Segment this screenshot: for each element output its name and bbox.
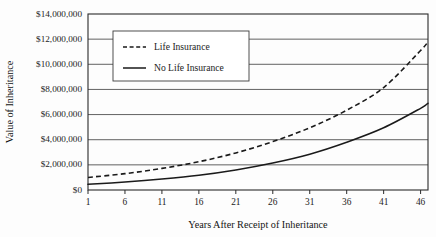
legend-label: No Life Insurance [154,62,224,73]
x-tick-label: 11 [157,197,166,207]
y-tick-label: $4,000,000 [41,134,83,144]
x-tick-label: 46 [416,197,426,207]
legend-label: Life Insurance [154,41,210,52]
legend-box [113,31,249,81]
x-tick-label: 26 [268,197,278,207]
legend: Life InsuranceNo Life Insurance [113,31,249,81]
y-tick-label: $12,000,000 [36,34,82,44]
x-axis-title: Years After Receipt of Inheritance [188,219,328,230]
y-tick-label: $8,000,000 [41,84,83,94]
chart-figure: $0$2,000,000$4,000,000$6,000,000$8,000,0… [0,0,436,237]
x-axis-tick-marks [88,190,421,194]
x-tick-label: 41 [379,197,389,207]
x-tick-label: 1 [86,197,91,207]
y-tick-label: $6,000,000 [41,109,83,119]
x-tick-label: 21 [231,197,241,207]
chart-canvas: $0$2,000,000$4,000,000$6,000,000$8,000,0… [0,0,436,237]
y-tick-label: $14,000,000 [36,9,82,19]
x-tick-label: 36 [342,197,352,207]
y-tick-label: $2,000,000 [41,159,83,169]
x-tick-label: 31 [305,197,315,207]
y-axis-tick-labels: $0$2,000,000$4,000,000$6,000,000$8,000,0… [36,9,82,195]
y-axis-title: Value of Inheritance [4,60,15,143]
x-axis-tick-labels: 161116212631364146 [86,197,426,207]
x-tick-label: 16 [194,197,204,207]
x-tick-label: 6 [123,197,128,207]
y-tick-label: $0 [73,185,83,195]
y-tick-label: $10,000,000 [36,59,82,69]
